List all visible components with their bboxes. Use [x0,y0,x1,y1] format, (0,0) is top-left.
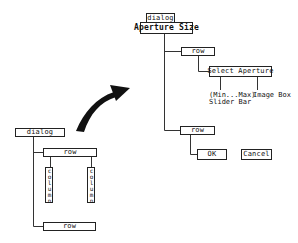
image-box-label: Image Box [253,92,291,99]
ok-node: OK [197,149,227,160]
right-row-top-node: row [181,47,215,56]
left-column-node-1: column [45,167,53,203]
slider-bar-label-line2: Slider Bar [209,99,251,106]
select-aperture-node: Select Aperture [209,66,272,77]
column-label-1: column [46,167,52,203]
left-row-bottom-node: row [43,222,96,231]
left-column-node-2: column [87,167,95,203]
cancel-node: Cancel [241,149,272,160]
column-label-2: column [88,167,94,203]
aperture-size-title-node: Aperture Size [140,22,193,34]
transform-arrow-icon [76,85,130,132]
connector-lines [0,0,298,243]
left-dialog-node: dialog [15,128,65,137]
left-row-top-node: row [43,148,97,157]
right-row-bottom-node: row [180,126,215,135]
